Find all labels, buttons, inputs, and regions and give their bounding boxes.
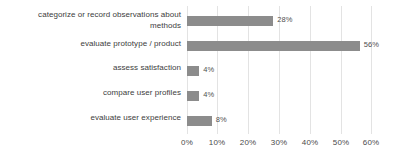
bar-row: 4% (187, 59, 372, 83)
x-tick-label: 50% (333, 138, 349, 147)
bar-value-label: 4% (203, 63, 214, 77)
category-label: assess satisfaction (6, 63, 181, 74)
bar[interactable] (187, 16, 273, 26)
x-tick-label: 60% (363, 138, 379, 147)
category-label: categorize or record observations about … (6, 10, 181, 31)
bar-row: 8% (187, 109, 372, 133)
bar-value-label: 4% (203, 88, 214, 102)
x-tick-label: 0% (181, 138, 193, 147)
x-axis-tick-labels: 0% 10% 20% 30% 40% 50% 60% (187, 138, 372, 154)
bar[interactable] (187, 41, 360, 51)
x-tick-label: 30% (271, 138, 287, 147)
bar-row: 56% (187, 34, 372, 58)
bar-value-label: 28% (277, 13, 292, 27)
bar-row: 28% (187, 9, 372, 33)
category-label: evaluate user experience (6, 113, 181, 124)
bar[interactable] (187, 91, 199, 101)
bar-row: 4% (187, 84, 372, 108)
category-axis-labels: categorize or record observations about … (0, 6, 181, 134)
x-tick-label: 10% (209, 138, 225, 147)
category-label: compare user profiles (6, 88, 181, 99)
bar[interactable] (187, 116, 212, 126)
bar-value-label: 56% (364, 38, 379, 52)
category-label: evaluate prototype / product (6, 39, 181, 50)
x-tick-label: 40% (302, 138, 318, 147)
plot-area: 28% 56% 4% 4% 8% (187, 6, 372, 134)
horizontal-bar-chart: categorize or record observations about … (0, 0, 395, 165)
bar[interactable] (187, 66, 199, 76)
x-tick-label: 20% (240, 138, 256, 147)
bar-value-label: 8% (216, 113, 227, 127)
